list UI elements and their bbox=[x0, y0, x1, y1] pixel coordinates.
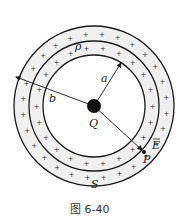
svg-text:+: + bbox=[20, 95, 26, 103]
svg-text:+: + bbox=[100, 45, 106, 53]
svg-text:+: + bbox=[141, 71, 147, 79]
svg-text:+: + bbox=[36, 86, 42, 94]
svg-text:+: + bbox=[30, 65, 36, 73]
svg-text:+: + bbox=[43, 134, 49, 142]
label-p: P bbox=[142, 153, 151, 166]
svg-text:+: + bbox=[116, 50, 122, 58]
svg-text:+: + bbox=[100, 160, 106, 168]
svg-text:+: + bbox=[54, 59, 60, 67]
svg-text:+: + bbox=[53, 42, 59, 50]
svg-text:+: + bbox=[116, 155, 122, 163]
svg-text:+: + bbox=[141, 134, 147, 142]
label-rho: ρ bbox=[74, 40, 82, 53]
svg-text:+: + bbox=[67, 35, 73, 43]
svg-text:+: + bbox=[43, 71, 49, 79]
svg-text:+: + bbox=[83, 31, 89, 39]
label-a: a bbox=[101, 72, 108, 85]
svg-text:+: + bbox=[36, 119, 42, 127]
svg-text:+: + bbox=[31, 142, 37, 150]
svg-text:+: + bbox=[84, 45, 90, 53]
label-e: E bbox=[151, 139, 160, 152]
svg-text:+: + bbox=[130, 146, 136, 154]
svg-text:+: + bbox=[159, 78, 165, 86]
svg-text:+: + bbox=[40, 52, 46, 60]
svg-text:+: + bbox=[147, 86, 153, 94]
svg-text:+: + bbox=[152, 63, 158, 71]
svg-text:+: + bbox=[101, 174, 107, 182]
spherical-shell-diagram: ++++++++++++++++++++++++++++++++++++++++… bbox=[0, 0, 183, 222]
svg-text:+: + bbox=[24, 127, 30, 135]
svg-text:+: + bbox=[115, 34, 121, 42]
svg-text:+: + bbox=[54, 164, 60, 172]
svg-text:+: + bbox=[20, 111, 26, 119]
svg-text:+: + bbox=[131, 163, 137, 171]
svg-text:+: + bbox=[147, 119, 153, 127]
figure-caption: 图 6-40 bbox=[70, 203, 109, 216]
svg-text:+: + bbox=[150, 103, 156, 111]
svg-text:+: + bbox=[116, 170, 122, 178]
svg-text:+: + bbox=[54, 146, 60, 154]
field-e-arrow bbox=[94, 106, 142, 150]
svg-text:+: + bbox=[42, 154, 48, 162]
svg-text:+: + bbox=[129, 41, 135, 49]
label-s: S bbox=[91, 178, 99, 191]
svg-text:+: + bbox=[34, 103, 40, 111]
svg-text:+: + bbox=[68, 155, 74, 163]
svg-text:+: + bbox=[85, 174, 91, 182]
svg-text:+: + bbox=[163, 94, 169, 102]
label-q: Q bbox=[89, 117, 98, 130]
svg-text:+: + bbox=[84, 160, 90, 168]
svg-text:+: + bbox=[142, 51, 148, 59]
svg-text:+: + bbox=[68, 50, 74, 58]
svg-text:+: + bbox=[130, 59, 136, 67]
svg-text:+: + bbox=[160, 125, 166, 133]
svg-text:+: + bbox=[69, 171, 75, 179]
svg-text:+: + bbox=[99, 31, 105, 39]
point-charge-q bbox=[87, 99, 101, 113]
label-b: b bbox=[49, 92, 56, 105]
svg-text:+: + bbox=[163, 110, 169, 118]
